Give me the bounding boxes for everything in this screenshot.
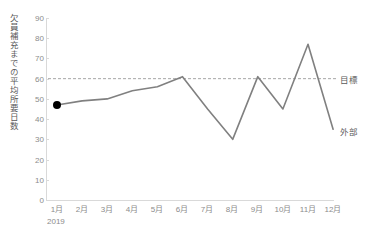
data-point-markers bbox=[53, 101, 61, 109]
external-series-line bbox=[57, 44, 333, 139]
external-series-label: 外部 bbox=[340, 125, 358, 137]
data-point-marker bbox=[53, 101, 61, 109]
series-plot bbox=[0, 0, 366, 241]
target-series-label: 目標 bbox=[340, 73, 358, 85]
chart-container: 欠員補充までの平均所要日数 90 80 70 60 50 40 30 20 10… bbox=[0, 0, 366, 241]
